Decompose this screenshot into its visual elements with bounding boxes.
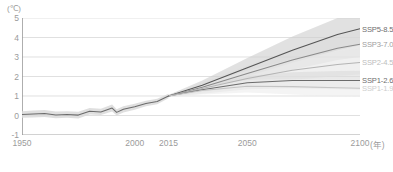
legend-label-ssp5-8-5: SSP5-8.5 (362, 24, 393, 33)
legend-label-ssp3-7-0: SSP3-7.0 (362, 40, 393, 49)
legend-label-ssp2-4-5: SSP2-4.5 (362, 58, 393, 67)
legend-label-ssp1-1-9: SSP1-1.9 (362, 84, 393, 93)
